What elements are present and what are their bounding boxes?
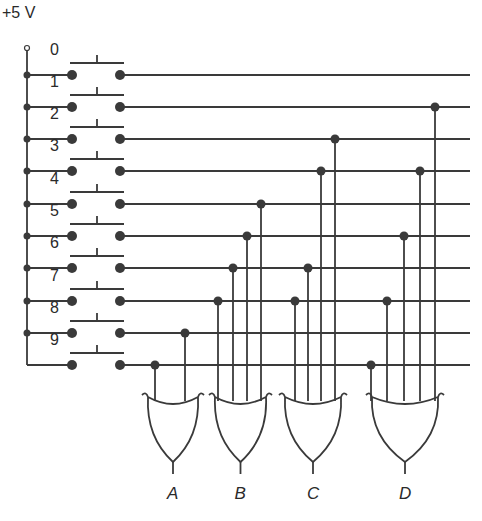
switch-contact-left: [67, 199, 77, 209]
key-label-6: 6: [50, 234, 59, 252]
or-gate-A: [142, 393, 204, 462]
output-label-D: D: [399, 484, 411, 504]
or-gate-D: [366, 393, 444, 462]
key-label-7: 7: [50, 267, 59, 285]
or-gate-B: [209, 393, 272, 462]
switch-contact-left: [67, 328, 77, 338]
switch-contact-left: [67, 360, 77, 370]
key-label-5: 5: [50, 202, 59, 220]
switch-contact-left: [67, 102, 77, 112]
key-label-3: 3: [50, 137, 59, 155]
supply-voltage-label: +5 V: [2, 4, 35, 22]
key-label-9: 9: [50, 331, 59, 349]
switch-contact-left: [67, 134, 77, 144]
supply-terminal-icon: [25, 46, 30, 51]
key-label-1: 1: [50, 73, 59, 91]
or-gate-C: [279, 393, 347, 462]
switch-contact-left: [67, 231, 77, 241]
output-label-C: C: [307, 484, 319, 504]
switch-contact-left: [67, 296, 77, 306]
key-label-2: 2: [50, 105, 59, 123]
key-label-0: 0: [50, 41, 59, 59]
switch-contact-left: [67, 166, 77, 176]
encoder-circuit: [0, 0, 482, 521]
key-label-4: 4: [50, 170, 59, 188]
switch-contact-left: [67, 263, 77, 273]
output-label-A: A: [167, 484, 178, 504]
output-label-B: B: [235, 484, 246, 504]
key-label-8: 8: [50, 299, 59, 317]
switch-contact-left: [67, 70, 77, 80]
